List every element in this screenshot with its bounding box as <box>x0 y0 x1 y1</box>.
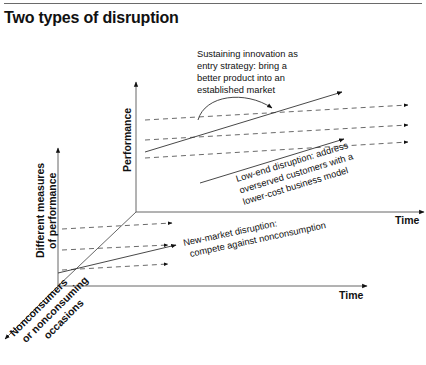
new-market-disruption-annotation: New-market disruption: compete against n… <box>182 208 326 259</box>
lower-dashed-trajectory-2 <box>62 245 168 250</box>
sustaining-innovation-annotation: Sustaining innovation as entry strategy:… <box>197 49 298 95</box>
disruption-diagram: Performance Time Time Different measures… <box>0 0 426 365</box>
svg-text:Sustaining innovation as: Sustaining innovation as <box>197 49 298 59</box>
upper-dashed-trajectory-3 <box>145 142 408 158</box>
lower-dashed-trajectory-1 <box>62 223 172 229</box>
sustaining-innovation-line <box>145 92 342 152</box>
svg-text:established market: established market <box>197 85 275 95</box>
plane-connector-line <box>58 212 136 286</box>
performance-axis-label: Performance <box>121 108 133 172</box>
svg-text:entry strategy: bring a: entry strategy: bring a <box>197 61 288 71</box>
svg-text:better product into an: better product into an <box>197 73 285 83</box>
different-measures-label: Different measures <box>34 163 46 258</box>
upper-dashed-trajectory-2 <box>145 125 408 140</box>
lower-time-axis-label: Time <box>339 289 363 301</box>
low-end-disruption-annotation: Low-end disruption: address overserved c… <box>235 140 359 207</box>
upper-dashed-trajectory-1 <box>145 105 408 120</box>
different-measures-label-2: of performance <box>46 172 58 249</box>
upper-time-axis-label: Time <box>395 214 419 226</box>
nonconsumers-label: Nonconsumers or nonconsuming occasions <box>7 264 99 356</box>
